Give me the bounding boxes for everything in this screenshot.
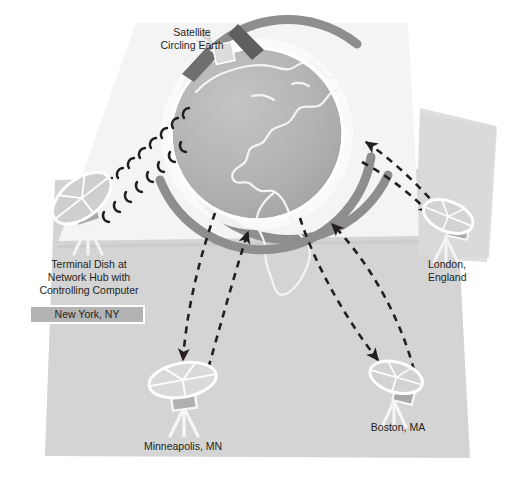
label-new-york-text: New York, NY xyxy=(31,307,143,322)
label-london: London, England xyxy=(428,258,508,284)
satellite-network-diagram xyxy=(0,0,515,479)
diagram-canvas: Satellite Circling Earth Terminal Dish a… xyxy=(0,0,515,479)
label-new-york-highlight[interactable]: New York, NY xyxy=(29,305,145,324)
label-boston: Boston, MA xyxy=(343,421,453,434)
label-minneapolis: Minneapolis, MN xyxy=(103,440,263,453)
label-terminal-dish-description: Terminal Dish at Network Hub with Contro… xyxy=(6,258,172,297)
label-satellite: Satellite Circling Earth xyxy=(134,26,250,52)
